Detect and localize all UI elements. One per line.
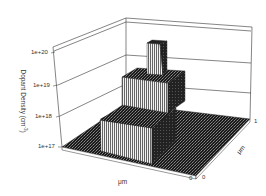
z-axis-label-text: Dopant Density (cm bbox=[20, 69, 27, 126]
y-tick-1: 1 bbox=[254, 118, 257, 124]
y-tick-0: 0 bbox=[202, 174, 205, 180]
surface-tier-1e19 bbox=[122, 68, 185, 113]
z-tick-1e17: 1e+17 bbox=[38, 143, 55, 149]
x-tick-0: 0 bbox=[189, 175, 192, 181]
z-axis-label-close: ) bbox=[20, 131, 27, 133]
z-tick-1e20: 1e+20 bbox=[31, 49, 48, 55]
z-axis-label: Dopant Density (cm-3) bbox=[20, 61, 28, 141]
z-tick-1e18: 1e+18 bbox=[35, 113, 52, 119]
z-tick-1e19: 1e+19 bbox=[33, 82, 50, 88]
x-axis-label: μm bbox=[118, 178, 127, 185]
surface-peak-1e20 bbox=[147, 40, 167, 75]
surface-plot bbox=[0, 0, 266, 196]
